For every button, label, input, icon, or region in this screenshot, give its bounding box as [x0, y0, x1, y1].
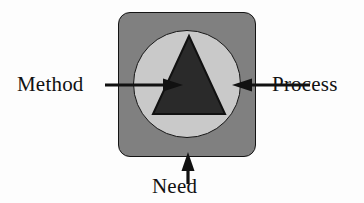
label-need: Need [152, 176, 197, 197]
diagram-canvas: Method Process Need [0, 0, 364, 203]
triangle-shape [150, 33, 228, 117]
label-method: Method [17, 74, 84, 95]
method-arrow-icon [105, 78, 185, 92]
label-process: Process [272, 74, 338, 95]
